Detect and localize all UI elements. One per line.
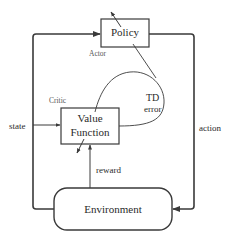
state-label: state [9,122,26,131]
critic-label: Critic [49,97,66,105]
reward-label: reward [96,166,121,175]
action-arrow [149,34,194,209]
policy-label: Policy [101,27,149,38]
action-label: action [199,124,221,133]
value-function-label-line2: Function [61,127,119,138]
td-error-label-line1: TD [146,93,159,103]
actor-label: Actor [89,50,106,58]
environment-label: Environment [54,204,172,215]
value-function-label-line1: Value [61,113,119,124]
td-error-label-line2: error [144,105,162,114]
td-error-to-policy-line [133,44,156,78]
